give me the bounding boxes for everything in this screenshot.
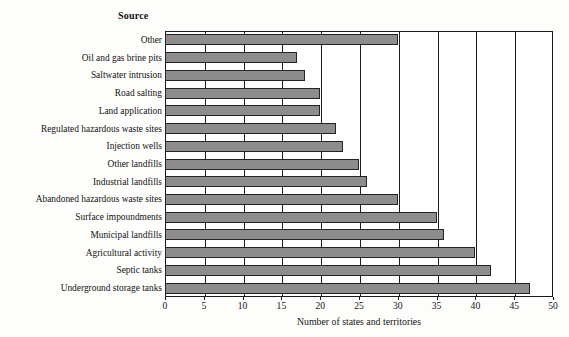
bar-chart-figure: Source OtherOil and gas brine pitsSaltwa… — [0, 0, 569, 337]
x-tick-label: 35 — [432, 300, 442, 311]
gridline-30 — [399, 32, 400, 296]
gridline-35 — [438, 32, 439, 296]
category-label: Regulated hazardous waste sites — [0, 124, 162, 134]
x-tick-label: 45 — [509, 300, 519, 311]
category-label: Other landfills — [0, 159, 162, 169]
x-tick-label: 40 — [471, 300, 481, 311]
x-tick-label: 50 — [548, 300, 558, 311]
x-tick-label: 0 — [163, 300, 168, 311]
x-tick-label: 5 — [201, 300, 206, 311]
category-label-column: OtherOil and gas brine pitsSaltwater int… — [0, 31, 162, 297]
category-label: Abandoned hazardous waste sites — [0, 194, 162, 204]
category-label: Industrial landfills — [0, 177, 162, 187]
gridline-5 — [205, 32, 206, 296]
category-label: Surface impoundments — [0, 212, 162, 222]
category-label: Land application — [0, 106, 162, 116]
x-tick-label: 10 — [238, 300, 248, 311]
x-axis-title: Number of states and territories — [165, 316, 553, 327]
category-label: Road salting — [0, 88, 162, 98]
gridline-40 — [476, 32, 477, 296]
category-label: Oil and gas brine pits — [0, 53, 162, 63]
gridline-10 — [244, 32, 245, 296]
x-tick-label: 30 — [393, 300, 403, 311]
gridline-25 — [360, 32, 361, 296]
category-label: Agricultural activity — [0, 248, 162, 258]
gridline-15 — [282, 32, 283, 296]
category-label: Saltwater intrusion — [0, 70, 162, 80]
category-label: Municipal landfills — [0, 230, 162, 240]
x-axis: 05101520253035404550 — [165, 297, 553, 317]
category-label: Septic tanks — [0, 265, 162, 275]
gridline-20 — [321, 32, 322, 296]
category-label: Injection wells — [0, 141, 162, 151]
x-tick-label: 25 — [354, 300, 364, 311]
source-column-heading: Source — [118, 10, 148, 21]
category-label: Other — [0, 35, 162, 45]
x-tick-label: 15 — [277, 300, 287, 311]
plot-area — [165, 31, 553, 297]
x-tick-label: 20 — [315, 300, 325, 311]
gridline-45 — [515, 32, 516, 296]
category-label: Underground storage tanks — [0, 283, 162, 293]
